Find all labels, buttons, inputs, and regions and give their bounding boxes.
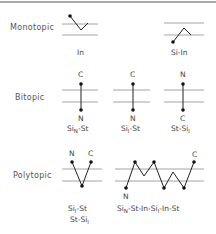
terminus-dot-top bbox=[79, 82, 83, 86]
terminus-top: N bbox=[180, 70, 186, 79]
monotopic-si-in-diagram: Si-In bbox=[164, 23, 204, 57]
label-multipass: SiN-St-In-SiI-In-St bbox=[117, 204, 179, 214]
diagram-canvas: Monotopic Bitopic Polytopic In Si-In C bbox=[0, 0, 216, 234]
label-st-sii: St-SiI bbox=[70, 215, 89, 225]
loop-dot bbox=[152, 160, 156, 164]
terminus-c: C bbox=[88, 149, 93, 158]
terminus-dot-top bbox=[181, 82, 185, 86]
terminus-n: N bbox=[69, 149, 75, 158]
category-monotopic: Monotopic bbox=[10, 23, 54, 32]
terminus-dot-c bbox=[89, 160, 93, 164]
loop-dot bbox=[80, 184, 84, 188]
terminus-dot-n bbox=[70, 160, 74, 164]
topology-diagram: Monotopic Bitopic Polytopic In Si-In C bbox=[0, 0, 216, 234]
terminus-top: C bbox=[78, 70, 83, 79]
terminus-bottom: C bbox=[180, 114, 185, 123]
terminus-c: C bbox=[192, 150, 197, 159]
label-in: In bbox=[77, 48, 84, 57]
category-bitopic: Bitopic bbox=[15, 93, 45, 102]
protein-chain bbox=[126, 162, 194, 188]
loop-dot bbox=[133, 160, 137, 164]
terminus-bottom: N bbox=[78, 114, 84, 123]
protein-chain bbox=[70, 16, 88, 30]
monotopic-in-diagram: In bbox=[62, 14, 98, 57]
terminus-dot-c bbox=[192, 160, 196, 164]
terminus-top: C bbox=[130, 70, 135, 79]
terminus-n: N bbox=[123, 192, 129, 201]
polytopic-hairpin-diagram: N C SiI-St St-SiI bbox=[62, 149, 102, 225]
loop-dot bbox=[162, 186, 166, 190]
terminus-dot bbox=[171, 40, 175, 44]
bitopic-sii-st-diagram: C N SiI-St bbox=[113, 70, 150, 134]
loop-dot bbox=[182, 186, 186, 190]
terminus-dot-bottom bbox=[79, 108, 83, 112]
label-st-sii: St-SiI bbox=[171, 124, 190, 134]
label-sii-st: SiI-St bbox=[121, 124, 140, 134]
terminus-dot-bottom bbox=[131, 108, 135, 112]
terminus-dot-bottom bbox=[181, 108, 185, 112]
bitopic-sin-st-diagram: C N SiN-St bbox=[62, 70, 98, 134]
terminus-dot-top bbox=[131, 82, 135, 86]
polytopic-multipass-diagram: C N SiN-St-In-SiI-In-St bbox=[115, 150, 204, 214]
terminus-dot bbox=[68, 14, 72, 18]
label-si-in: Si-In bbox=[171, 48, 188, 57]
category-polytopic: Polytopic bbox=[13, 171, 52, 180]
protein-chain bbox=[72, 162, 91, 186]
terminus-dot-n bbox=[124, 186, 128, 190]
bitopic-st-sii-diagram: N C St-SiI bbox=[164, 70, 204, 134]
label-sin-st: SiN-St bbox=[67, 124, 88, 134]
label-sii-st: SiI-St bbox=[68, 204, 87, 214]
terminus-bottom: N bbox=[130, 114, 136, 123]
